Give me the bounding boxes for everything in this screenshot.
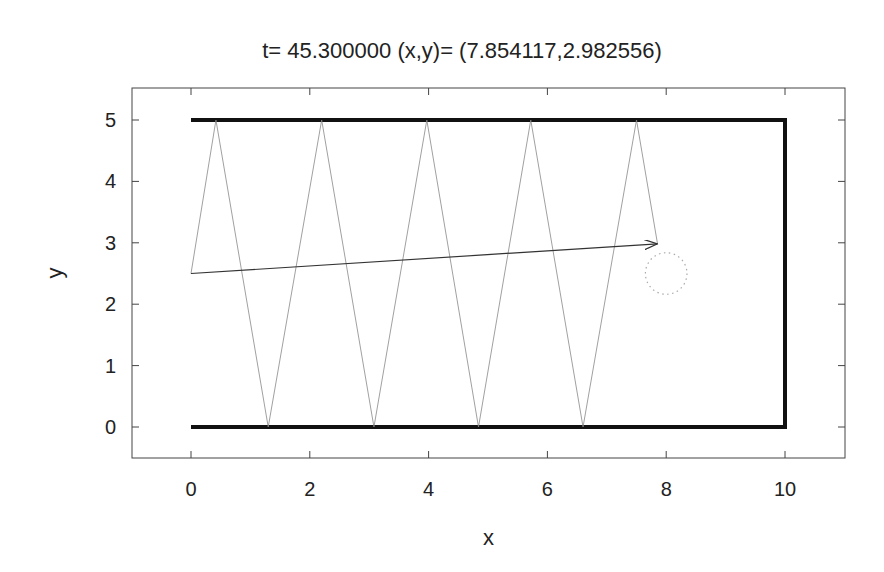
displacement-arrow [191, 244, 658, 274]
trajectory-line [191, 120, 658, 427]
y-tick-label: 1 [105, 355, 116, 377]
x-tick-label: 10 [774, 478, 796, 500]
y-tick-label: 2 [105, 293, 116, 315]
plot-frame [132, 88, 845, 458]
y-tick-label: 5 [105, 109, 116, 131]
y-tick-label: 4 [105, 170, 116, 192]
x-tick-label: 6 [542, 478, 553, 500]
y-tick-label: 3 [105, 232, 116, 254]
circle-marker [645, 253, 687, 295]
x-axis-label: x [483, 525, 494, 550]
walls-line [191, 120, 785, 427]
x-tick-label: 2 [304, 478, 315, 500]
x-tick-label: 4 [423, 478, 434, 500]
y-tick-label: 0 [105, 416, 116, 438]
y-axis-label: y [42, 268, 67, 279]
x-tick-label: 0 [185, 478, 196, 500]
plot-area: 0246810012345xy [0, 0, 884, 572]
x-tick-label: 8 [661, 478, 672, 500]
